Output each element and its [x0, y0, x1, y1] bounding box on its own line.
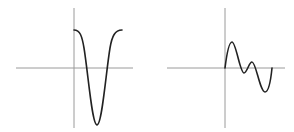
function-plots [0, 0, 294, 132]
figure-canvas [0, 0, 294, 132]
right-plot [167, 8, 285, 128]
left-curve [74, 30, 122, 125]
right-curve [225, 42, 272, 92]
left-plot [16, 8, 133, 128]
